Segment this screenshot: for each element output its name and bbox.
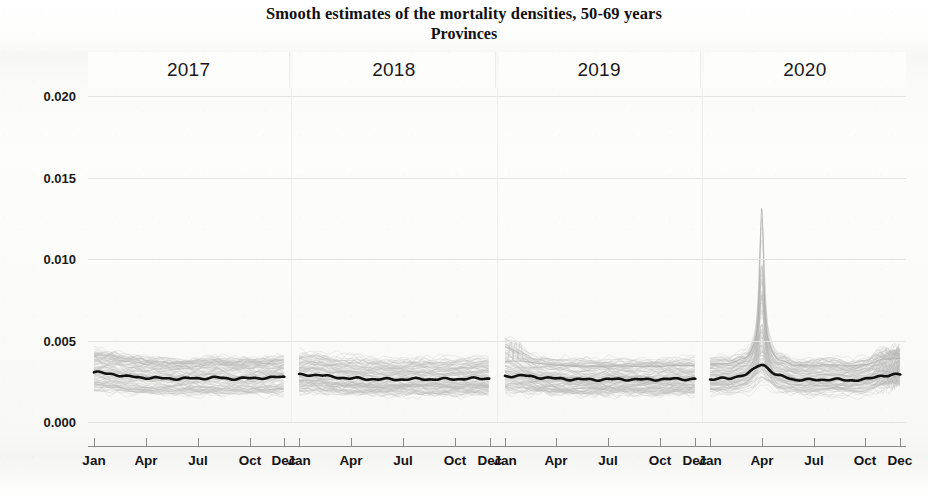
x-tick-label-2020-Jan: Jan (698, 453, 721, 468)
x-tick-label-2017-Jul: Jul (188, 453, 208, 468)
x-tick-2020-Dec (900, 438, 901, 447)
y-tick-label-0.015: 0.015 (43, 170, 76, 185)
y-tick-label-0.020: 0.020 (43, 89, 76, 104)
plot-area: 2017201820192020 (88, 52, 906, 439)
x-tick-label-2018-Jan: Jan (287, 453, 310, 468)
y-tick-label-0.005: 0.005 (43, 333, 76, 348)
province-curves-2017 (94, 346, 284, 399)
chart-page: Smooth estimates of the mortality densit… (0, 0, 928, 496)
facet-plot-2018 (293, 88, 495, 422)
chart-subtitle: Provinces (0, 24, 928, 44)
x-axis-line (88, 446, 906, 447)
facet-panels-row (88, 88, 906, 422)
y-tick-label-0.000: 0.000 (43, 415, 76, 430)
covid-peak-curve (710, 209, 900, 366)
x-tick-2018-Dec (490, 438, 491, 447)
x-tick-label-2019-Jan: Jan (493, 453, 516, 468)
facet-strip-2017: 2017 (88, 52, 290, 88)
facet-panel-2020 (704, 88, 906, 422)
x-tick-2017-Oct (250, 438, 251, 447)
x-tick-2019-Oct (660, 438, 661, 447)
x-tick-label-2017-Oct: Oct (239, 453, 262, 468)
x-tick-label-2020-Oct: Oct (854, 453, 877, 468)
facet-panel-2017 (88, 88, 290, 422)
y-axis: 0.0000.0050.0100.0150.020 (0, 52, 84, 439)
x-tick-label-2017-Jan: Jan (82, 453, 105, 468)
chart-title-block: Smooth estimates of the mortality densit… (0, 3, 928, 44)
x-tick-label-2018-Apr: Apr (339, 453, 362, 468)
x-tick-label-2017-Apr: Apr (134, 453, 157, 468)
facet-strip-label: 2018 (372, 59, 415, 81)
x-tick-2017-Jan (94, 438, 95, 447)
facet-strip-2020: 2020 (704, 52, 906, 88)
x-tick-2018-Jul (403, 438, 404, 447)
y-tick-label-0.010: 0.010 (43, 252, 76, 267)
facet-panel-2019 (499, 88, 701, 422)
province-curves-2019 (505, 337, 695, 400)
x-tick-label-2020-Dec: Dec (888, 453, 913, 468)
facet-plot-2020 (704, 88, 906, 422)
province-curves-2018 (299, 348, 489, 399)
x-tick-2017-Jul (198, 438, 199, 447)
gridline-0.000 (88, 422, 906, 423)
facet-strip-label: 2017 (167, 59, 210, 81)
x-tick-2017-Dec (284, 438, 285, 447)
chart-title: Smooth estimates of the mortality densit… (0, 3, 928, 24)
facet-plot-2019 (499, 88, 701, 422)
facet-strip-label: 2020 (783, 59, 826, 81)
x-axis: JanAprJulOctDecJanAprJulOctDecJanAprJulO… (88, 437, 906, 487)
province-curves-2020 (710, 218, 900, 399)
x-tick-2019-Jan (505, 438, 506, 447)
facet-panel-2018 (293, 88, 495, 422)
x-tick-label-2019-Jul: Jul (598, 453, 618, 468)
x-tick-label-2018-Jul: Jul (393, 453, 413, 468)
x-tick-label-2019-Oct: Oct (649, 453, 672, 468)
x-tick-label-2020-Jul: Jul (804, 453, 824, 468)
facet-strip-2019: 2019 (499, 52, 701, 88)
facet-strip-2018: 2018 (293, 52, 495, 88)
x-tick-2020-Apr (762, 438, 763, 447)
facet-plot-2017 (88, 88, 290, 422)
x-tick-2020-Oct (865, 438, 866, 447)
x-tick-label-2020-Apr: Apr (750, 453, 773, 468)
x-tick-2018-Oct (455, 438, 456, 447)
x-tick-2019-Apr (556, 438, 557, 447)
x-tick-2019-Dec (695, 438, 696, 447)
x-tick-2018-Jan (299, 438, 300, 447)
x-tick-2020-Jan (710, 438, 711, 447)
x-tick-2017-Apr (146, 438, 147, 447)
x-tick-label-2018-Oct: Oct (444, 453, 467, 468)
facet-strip-row: 2017201820192020 (88, 52, 906, 88)
facet-strip-label: 2019 (577, 59, 620, 81)
x-tick-label-2019-Apr: Apr (544, 453, 567, 468)
x-tick-2018-Apr (351, 438, 352, 447)
x-tick-2020-Jul (814, 438, 815, 447)
x-tick-2019-Jul (608, 438, 609, 447)
